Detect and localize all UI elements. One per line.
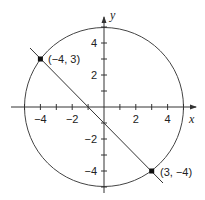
point-marker xyxy=(38,57,43,62)
y-tick-label: 4 xyxy=(91,37,97,49)
y-axis-label: y xyxy=(109,8,116,22)
coordinate-plot: −4 −2 2 4 4 2 −2 −4 x y (−4, 3) (3, −4) xyxy=(0,0,205,200)
point-label: (−4, 3) xyxy=(48,53,80,65)
x-tick-label: −2 xyxy=(66,113,79,125)
y-tick-label: −2 xyxy=(84,133,97,145)
y-tick-label: −4 xyxy=(84,165,97,177)
point-marker xyxy=(149,169,154,174)
x-tick-label: 4 xyxy=(165,113,171,125)
x-tick-label: 2 xyxy=(133,113,139,125)
y-axis-arrow-icon xyxy=(102,16,107,23)
y-tick-label: 2 xyxy=(91,69,97,81)
x-tick-label: −4 xyxy=(34,113,47,125)
x-axis-arrow-icon xyxy=(190,105,197,110)
x-axis-label: x xyxy=(188,112,195,126)
point-label: (3, −4) xyxy=(160,166,192,178)
